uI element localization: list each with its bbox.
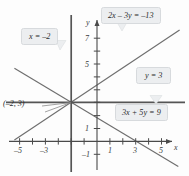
x-tick-label-3: 3 [133, 146, 137, 155]
callout-3x-plus-5y-text: 3x + 5y = 9 [122, 108, 161, 117]
y-axis-label: y [86, 18, 90, 27]
x-tick-label-5: 5 [159, 146, 163, 155]
callout-x-equals-neg2[interactable]: x = –2 [21, 28, 58, 45]
x-tick-label-1: 1 [108, 146, 112, 155]
y-axis-arrowhead [95, 20, 100, 26]
x-axis-arrowhead [166, 139, 172, 144]
callout-y-equals-3-text: y = 3 [145, 71, 162, 80]
callout-2x-minus-3y-text: 2x – 3y = –13 [108, 11, 154, 20]
x-tick-label-neg3: –3 [40, 146, 48, 155]
callout-3x-plus-5y[interactable]: 3x + 5y = 9 [115, 104, 168, 121]
y-tick-label-1: 1 [85, 124, 89, 133]
x-axis-label: x [174, 143, 178, 152]
graph-figure: x = –2 2x – 3y = –13 y = 3 3x + 5y = 9 (… [0, 0, 189, 176]
y-tick-label-neg1: –1 [82, 150, 90, 159]
point-leader-line [42, 103, 71, 112]
y-tick-label-7: 7 [85, 34, 89, 43]
x-tick-label-neg5: –5 [14, 146, 22, 155]
callout-x-equals-neg2-text: x = –2 [29, 32, 50, 41]
y-tick-label-5: 5 [85, 60, 89, 69]
callout-y-equals-3[interactable]: y = 3 [136, 67, 171, 84]
callout-2x-minus-3y[interactable]: 2x – 3y = –13 [101, 7, 161, 24]
intersection-point-label: (–2, 3) [3, 99, 24, 108]
